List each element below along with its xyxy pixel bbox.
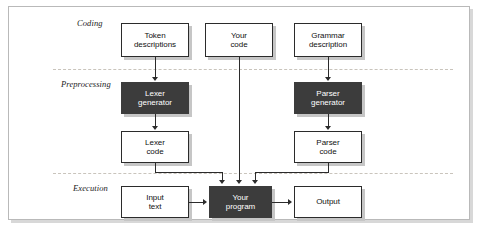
node-input-text[interactable]: Input text — [121, 186, 189, 218]
edge-token-descriptions-to-lexer-generator — [155, 57, 156, 78]
edge-lexer-code-to-your-program-arrowhead — [219, 180, 225, 184]
edge-your-program-to-output — [272, 202, 288, 203]
edge-parser-code-to-your-program-segment-down — [328, 163, 329, 172]
band-separator-coding-preprocessing — [53, 69, 453, 70]
node-input-text-label: Input text — [146, 193, 164, 212]
node-your-program[interactable]: Your program — [209, 186, 272, 218]
node-your-program-label: Your program — [226, 193, 255, 212]
node-grammar-description-label: Grammar description — [309, 31, 347, 50]
edge-lexer-code-to-your-program-segment-down — [155, 163, 156, 172]
edge-parser-generator-to-parser-code — [328, 114, 329, 126]
node-lexer-code[interactable]: Lexer code — [121, 131, 189, 163]
node-lexer-code-label: Lexer code — [145, 138, 165, 157]
node-parser-generator[interactable]: Parser generator — [294, 82, 362, 114]
edge-token-descriptions-to-lexer-generator-arrowhead — [152, 77, 158, 81]
node-parser-code-label: Parser code — [316, 138, 339, 157]
edge-lexer-generator-to-lexer-code — [155, 114, 156, 126]
edge-parser-code-to-your-program-segment-left — [255, 172, 329, 173]
edge-grammar-description-to-parser-generator-arrowhead — [325, 77, 331, 81]
edge-input-text-to-your-program-arrowhead — [203, 199, 207, 205]
edge-parser-generator-to-parser-code-arrowhead — [325, 126, 331, 130]
node-parser-code[interactable]: Parser code — [294, 131, 362, 163]
node-output-label: Output — [316, 197, 340, 207]
band-separator-preprocessing-execution — [53, 173, 453, 174]
edge-lexer-code-to-your-program-segment-right — [155, 172, 222, 173]
edge-your-program-to-output-arrowhead — [288, 199, 292, 205]
node-lexer-generator-label: Lexer generator — [138, 89, 172, 108]
edge-your-code-to-your-program — [239, 57, 240, 181]
edge-lexer-generator-to-lexer-code-arrowhead — [152, 126, 158, 130]
node-output[interactable]: Output — [294, 186, 362, 218]
band-title-execution: Execution — [73, 183, 108, 193]
edge-grammar-description-to-parser-generator — [328, 57, 329, 78]
diagram-frame: Coding Preprocessing Execution Token des… — [8, 6, 470, 220]
node-lexer-generator[interactable]: Lexer generator — [121, 82, 189, 114]
band-title-preprocessing: Preprocessing — [61, 79, 111, 89]
band-title-coding: Coding — [77, 18, 103, 28]
node-token-descriptions-label: Token descriptions — [134, 31, 176, 50]
node-grammar-description[interactable]: Grammar description — [294, 23, 362, 57]
diagram-figure: Coding Preprocessing Execution Token des… — [0, 0, 483, 234]
edge-your-code-to-your-program-arrowhead — [236, 180, 242, 184]
node-your-code-label: Your code — [230, 31, 247, 50]
edge-input-text-to-your-program — [189, 202, 204, 203]
node-token-descriptions[interactable]: Token descriptions — [121, 23, 189, 57]
node-your-code[interactable]: Your code — [205, 23, 273, 57]
node-parser-generator-label: Parser generator — [311, 89, 345, 108]
edge-parser-code-to-your-program-arrowhead — [252, 180, 258, 184]
